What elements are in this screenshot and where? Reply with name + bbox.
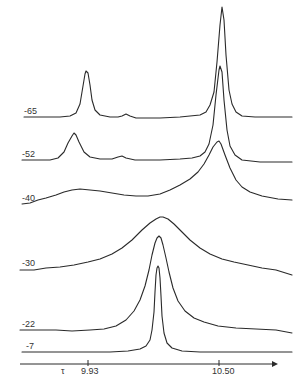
trace-label-minus-30: -30 xyxy=(22,259,35,268)
x-axis-arrow-icon xyxy=(272,361,278,367)
trace-minus-52 xyxy=(22,66,292,162)
trace-minus-7 xyxy=(22,266,292,352)
tick-label-9-93: 9.93 xyxy=(81,367,99,376)
axis-symbol-tau: τ xyxy=(61,367,65,376)
trace-label-minus-40: -40 xyxy=(22,194,35,203)
trace-label-minus-7: -7 xyxy=(26,342,34,351)
tick-label-10-50: 10.50 xyxy=(212,367,235,376)
trace-label-minus-65: -65 xyxy=(24,107,37,116)
trace-minus-22 xyxy=(20,236,292,333)
trace-label-minus-52: -52 xyxy=(22,150,35,159)
nmr-stacked-spectra xyxy=(0,0,305,389)
trace-label-minus-22: -22 xyxy=(22,320,35,329)
trace-minus-40 xyxy=(22,141,292,204)
trace-minus-30 xyxy=(20,217,292,275)
trace-minus-65 xyxy=(24,7,292,118)
